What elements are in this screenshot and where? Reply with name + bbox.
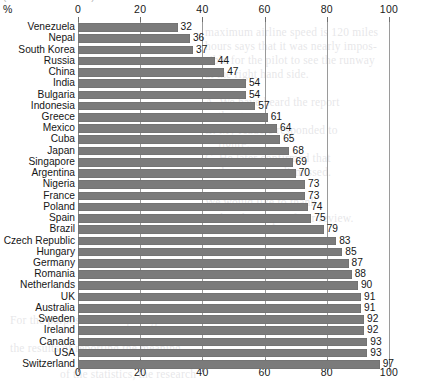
axis-tick-label-80: 80 — [321, 3, 333, 15]
bar-value-label: 85 — [345, 247, 356, 258]
bar-value-label: 54 — [249, 78, 260, 89]
bar-value-label: 88 — [355, 269, 366, 280]
bar — [78, 281, 358, 290]
bar-value-label: 74 — [311, 202, 322, 213]
bar-row: Czech Republic83 — [0, 235, 423, 246]
category-label: Hungary — [0, 247, 75, 258]
bar-value-label: 57 — [258, 101, 269, 112]
bar-value-label: 92 — [367, 325, 378, 336]
bar — [78, 192, 305, 201]
axis-tick-label-20: 20 — [134, 3, 146, 15]
category-label: South Korea — [0, 45, 75, 56]
bar — [78, 79, 246, 88]
bar — [78, 248, 342, 257]
bar-value-label: 70 — [299, 168, 310, 179]
category-label: USA — [0, 348, 75, 359]
bar — [78, 34, 190, 43]
bar — [78, 180, 305, 189]
category-label: Germany — [0, 258, 75, 269]
bar-value-label: 54 — [249, 90, 260, 101]
bar — [78, 113, 268, 122]
bar-row: Canada93 — [0, 336, 423, 347]
bar-value-label: 32 — [181, 22, 192, 33]
category-label: Australia — [0, 303, 75, 314]
bar — [78, 259, 349, 268]
bar — [78, 57, 215, 66]
bar — [78, 135, 280, 144]
bar — [78, 169, 296, 178]
axis-tick-label-0: 0 — [75, 3, 81, 15]
category-label: Mexico — [0, 123, 75, 134]
category-label: Canada — [0, 337, 75, 348]
bar — [78, 203, 308, 212]
bar-value-label: 44 — [218, 56, 229, 67]
bar — [78, 270, 352, 279]
bar-row: France73 — [0, 190, 423, 201]
bar-row: Nigeria73 — [0, 179, 423, 190]
bar-row: Netherlands90 — [0, 280, 423, 291]
bar — [78, 326, 364, 335]
bar — [78, 23, 178, 32]
category-label: Venezuela — [0, 22, 75, 33]
bar-row: Nepal36 — [0, 33, 423, 44]
bar-value-label: 37 — [196, 45, 207, 56]
category-label: Indonesia — [0, 101, 75, 112]
bar-row: Switzerland97 — [0, 359, 423, 370]
bar — [78, 293, 361, 302]
axis-tick-label-40: 40 — [196, 3, 208, 15]
bar — [78, 91, 246, 100]
category-label: Japan — [0, 146, 75, 157]
bar — [78, 225, 324, 234]
bar-value-label: 65 — [283, 134, 294, 145]
category-label: Nepal — [0, 33, 75, 44]
bar-value-label: 87 — [352, 258, 363, 269]
bar — [78, 124, 277, 133]
bar-value-label: 75 — [314, 213, 325, 224]
bar-value-label: 68 — [292, 146, 303, 157]
bar — [78, 214, 311, 223]
bar — [78, 349, 367, 358]
bar-value-label: 91 — [364, 303, 375, 314]
category-label: Russia — [0, 56, 75, 67]
bar-row: Ireland92 — [0, 325, 423, 336]
category-label: Switzerland — [0, 359, 75, 370]
bar — [78, 315, 364, 324]
bar — [78, 68, 224, 77]
category-label: Nigeria — [0, 179, 75, 190]
bar-value-label: 93 — [370, 348, 381, 359]
category-label: Singapore — [0, 157, 75, 168]
bar-row: South Korea37 — [0, 44, 423, 55]
bar-value-label: 73 — [308, 179, 319, 190]
bar-value-label: 90 — [361, 280, 372, 291]
bar-value-label: 64 — [280, 123, 291, 134]
bar-value-label: 91 — [364, 292, 375, 303]
bar-row: Bulgaria54 — [0, 89, 423, 100]
category-label: Sweden — [0, 314, 75, 325]
bar-value-label: 61 — [271, 112, 282, 123]
bar-value-label: 92 — [367, 314, 378, 325]
bar-value-label: 93 — [370, 337, 381, 348]
category-label: France — [0, 191, 75, 202]
bar — [78, 304, 361, 313]
bar-value-label: 47 — [227, 67, 238, 78]
bar — [78, 360, 380, 369]
category-label: UK — [0, 292, 75, 303]
category-label: Poland — [0, 202, 75, 213]
category-label: Bulgaria — [0, 90, 75, 101]
category-label: Ireland — [0, 325, 75, 336]
bar — [78, 46, 193, 55]
bar-value-label: 79 — [327, 224, 338, 235]
percent-axis-unit-label: % — [3, 3, 12, 15]
bar-value-label: 83 — [339, 236, 350, 247]
bar-value-label: 97 — [383, 359, 394, 370]
category-label: Netherlands — [0, 280, 75, 291]
bar — [78, 102, 255, 111]
bar-row: Brazil79 — [0, 224, 423, 235]
axis-tick-label-100: 100 — [380, 3, 398, 15]
bar-value-label: 73 — [308, 191, 319, 202]
category-label: Cuba — [0, 134, 75, 145]
category-label: Argentina — [0, 168, 75, 179]
bar — [78, 237, 336, 246]
bar — [78, 158, 293, 167]
axis-tick-label-60: 60 — [258, 3, 270, 15]
